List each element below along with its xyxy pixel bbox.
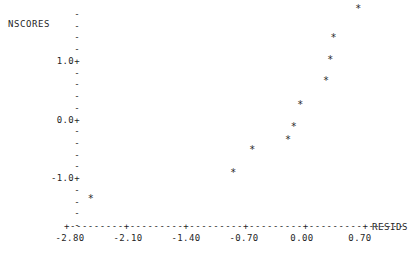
- y-axis-tick: -: [0, 160, 80, 172]
- x-axis-tick-label: 0.70: [348, 233, 371, 243]
- data-point-marker: *: [247, 145, 257, 155]
- character-plot-screen: NSCORES ----1.0+----0.0+-----1.0+---- +-…: [0, 0, 417, 260]
- y-axis-tick: -: [0, 102, 80, 114]
- data-point-marker: *: [325, 55, 335, 65]
- y-axis-tick: -: [0, 31, 80, 43]
- data-point-marker: *: [283, 135, 293, 145]
- plot-area: NSCORES ----1.0+----0.0+-----1.0+---- +-…: [0, 0, 417, 260]
- y-axis-tick: -: [0, 67, 80, 79]
- y-axis-tick: -: [0, 137, 80, 149]
- data-point-marker: *: [328, 33, 338, 43]
- y-axis-tick: -: [0, 78, 80, 90]
- x-axis-tick-label: -0.70: [229, 233, 258, 243]
- y-axis-tick-labeled: 0.0+: [0, 114, 80, 126]
- data-point-marker: *: [321, 76, 331, 86]
- x-axis-tick-label: -1.40: [171, 233, 200, 243]
- y-axis-tick: -: [0, 207, 80, 219]
- x-axis-tick-label: 0.00: [290, 233, 313, 243]
- y-axis-tick: -: [0, 90, 80, 102]
- y-axis-tick-labeled: -1.0+: [0, 172, 80, 184]
- data-point-marker: *: [86, 194, 96, 204]
- x-axis-tick-label: -2.80: [55, 233, 84, 243]
- data-point-marker: *: [353, 4, 363, 14]
- y-axis-tick: -: [0, 20, 80, 32]
- y-axis: ----1.0+----0.0+-----1.0+----: [0, 0, 80, 232]
- y-axis-tick: -: [0, 196, 80, 208]
- data-point-marker: *: [228, 168, 238, 178]
- y-axis-tick: -: [0, 125, 80, 137]
- y-axis-tick-labeled: 1.0+: [0, 55, 80, 67]
- y-axis-tick: -: [0, 43, 80, 55]
- x-axis-tick-label: -2.10: [113, 233, 142, 243]
- x-axis-line: +---------+---------+---------+---------…: [64, 221, 404, 231]
- x-axis-title: RESIDS: [372, 222, 408, 232]
- data-point-marker: *: [295, 100, 305, 110]
- y-axis-tick: -: [0, 8, 80, 20]
- y-axis-tick: -: [0, 149, 80, 161]
- data-point-marker: *: [289, 122, 299, 132]
- y-axis-tick: -: [0, 184, 80, 196]
